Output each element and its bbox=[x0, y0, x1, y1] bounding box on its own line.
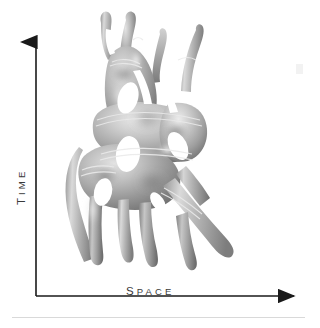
x-axis-label-letter-4: C bbox=[155, 286, 165, 297]
y-axis-label-letter-3: M bbox=[16, 178, 27, 189]
x-axis-label-letter-2: P bbox=[137, 286, 146, 297]
leg-center bbox=[139, 202, 158, 267]
corner-artifact bbox=[296, 64, 303, 74]
y-axis-label: TIME bbox=[15, 169, 27, 205]
footer-rule bbox=[12, 317, 305, 318]
x-axis-label-letter-1: S bbox=[126, 285, 137, 297]
branch-upper-middle bbox=[152, 28, 167, 83]
x-axis-label-letter-5: E bbox=[165, 286, 174, 297]
y-axis-label-letter-4: E bbox=[16, 169, 27, 178]
x-axis-label: SPACE bbox=[126, 285, 174, 297]
y-axis-label-letter-1: T bbox=[15, 195, 27, 205]
organic-structure bbox=[66, 11, 234, 270]
figure-root: TIME SPACE bbox=[0, 0, 320, 328]
space-time-figure: TIME SPACE bbox=[0, 0, 320, 328]
x-axis-label-letter-3: A bbox=[146, 286, 155, 297]
